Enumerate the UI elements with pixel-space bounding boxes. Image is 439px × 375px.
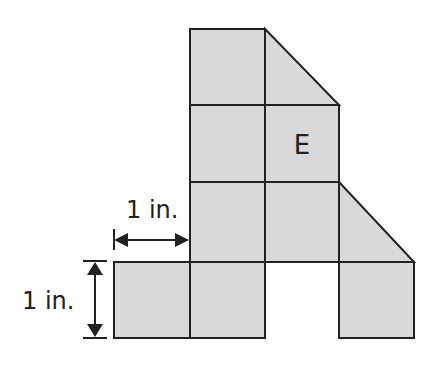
horizontal-dimension-label: 1 in. [126,196,178,224]
square-bottom-right [339,262,414,338]
vertical-dimension [83,261,107,338]
arrow-left-icon [114,233,128,247]
vertical-dimension-label: 1 in. [22,287,74,315]
square-row2-left [190,105,265,182]
horizontal-dimension [114,229,189,250]
square-row3-right [265,182,339,262]
arrow-up-icon [87,262,103,275]
square-bottom-mid [190,262,265,338]
label-E: E [294,130,310,160]
triangle-top [265,29,339,105]
square-top [190,29,265,105]
composite-figure-diagram: E 1 in. 1 in. [0,0,439,375]
square-bottom-left [114,262,190,338]
arrow-right-icon [175,233,189,247]
triangle-right [339,182,414,262]
square-row3-left [190,182,265,262]
arrow-down-icon [87,324,103,337]
figure-shapes [114,29,414,338]
